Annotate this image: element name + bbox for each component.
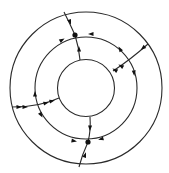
edge-top-outer (64, 12, 75, 35)
edge-left (12, 98, 59, 107)
arrow-left-outer2-icon (23, 105, 29, 109)
nodes-group (72, 32, 90, 144)
arrow-left-inner1-icon (43, 100, 49, 105)
arrow-middle-left-upper-icon (33, 91, 37, 97)
edges-group (12, 12, 148, 167)
middle-circle (35, 37, 137, 139)
arrow-middle-bottom-left-icon (71, 139, 77, 144)
concentric-flow-diagram (0, 0, 169, 173)
node-top (72, 32, 77, 37)
node-bottom (85, 139, 90, 144)
arrow-left-outer1-icon (17, 105, 23, 109)
arrow-middle-topright-icon (88, 32, 94, 36)
arrow-bottom-inner-icon (88, 125, 92, 131)
inner-circle (58, 60, 115, 117)
arrow-middle-right-upper-icon (117, 45, 123, 52)
arrow-left-inner2-icon (49, 98, 55, 103)
edge-bottom-outer (79, 142, 88, 167)
arrows-group (17, 19, 147, 158)
